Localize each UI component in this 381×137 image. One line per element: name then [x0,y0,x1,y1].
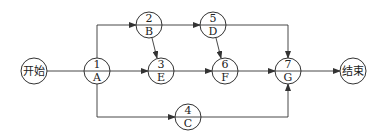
node-3: 3 E [148,58,174,84]
network-diagram: 开始 结束 1 A 2 B 3 E 4 C 5 D 6 F [0,0,381,137]
node-1: 1 A [84,58,110,84]
node-activity: D [209,25,218,38]
node-activity: A [92,71,102,84]
edge-5-6 [216,38,221,58]
node-activity: G [284,71,293,84]
node-number: 6 [222,58,229,71]
edge-4-7 [201,84,288,117]
node-6: 6 F [212,58,238,84]
node-number: 7 [285,58,292,71]
edge-1-2 [97,25,136,58]
node-number: 1 [94,58,101,71]
node-2: 2 B [136,12,162,38]
start-label: 开始 [23,64,45,78]
node-activity: C [184,117,192,130]
node-number: 3 [158,58,165,71]
node-number: 5 [210,12,217,25]
node-activity: E [157,71,165,84]
node-7: 7 G [275,58,301,84]
node-activity: B [145,25,153,38]
node-number: 2 [146,12,153,25]
end-node: 结束 [340,58,366,84]
start-node: 开始 [21,58,47,84]
edge-1-4 [97,84,175,117]
node-5: 5 D [200,12,226,38]
end-label: 结束 [342,65,364,78]
node-activity: F [221,71,229,84]
edge-5-7 [226,25,288,58]
node-number: 4 [185,104,192,117]
node-4: 4 C [175,104,201,130]
edge-2-3 [152,38,157,58]
